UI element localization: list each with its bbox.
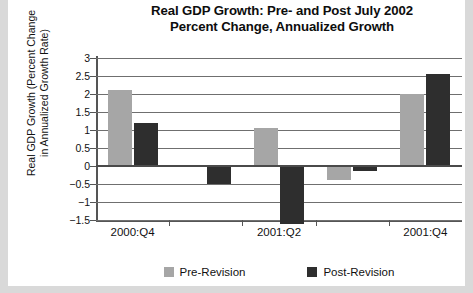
- y-axis-title-line-1: Real GDP Growth (Percent Change: [25, 0, 38, 198]
- bar-pre-revision-2001:Q3: [327, 166, 351, 180]
- zero-baseline: [96, 165, 462, 167]
- gridline: [96, 58, 462, 59]
- y-axis-tick-label: 2: [50, 89, 90, 99]
- y-axis-tick-label: 0: [50, 161, 90, 171]
- y-axis-tick: [90, 148, 96, 149]
- legend-item-pre-revision: Pre-Revision: [164, 266, 246, 278]
- y-axis-tick: [90, 184, 96, 185]
- bar-pre-revision-2001:Q2: [254, 128, 278, 166]
- x-axis-tick-label: 2001:Q4: [403, 226, 447, 238]
- legend-swatch-icon: [164, 267, 174, 277]
- chart-title: Real GDP Growth: Pre- and Post July 2002…: [96, 3, 468, 35]
- y-axis-line: [96, 56, 98, 222]
- y-axis-tick: [90, 94, 96, 95]
- y-axis-tick: [90, 112, 96, 113]
- y-axis-tick-label: 0.5: [50, 143, 90, 153]
- gridline: [96, 76, 462, 77]
- y-axis-tick-label: 1: [50, 125, 90, 135]
- y-axis-tick-label: −0.5: [50, 179, 90, 189]
- chart-legend: Pre-RevisionPost-Revision: [96, 262, 462, 282]
- x-axis-tick-labels: 2000:Q42001:Q22001:Q4: [96, 226, 462, 244]
- gridline: [96, 202, 462, 203]
- y-axis-tick: [90, 58, 96, 59]
- bar-post-revision-2000:Q4: [134, 123, 158, 166]
- y-axis-tick-label: −1.5: [50, 215, 90, 225]
- y-axis-tick: [90, 76, 96, 77]
- legend-item-post-revision: Post-Revision: [307, 266, 394, 278]
- page-edge-right: [465, 0, 473, 293]
- x-axis-tick-label: 2001:Q2: [257, 226, 301, 238]
- legend-swatch-icon: [307, 267, 317, 277]
- bar-pre-revision-2001:Q4: [400, 94, 424, 166]
- page-edge-left: [0, 0, 8, 293]
- chart-title-line-1: Real GDP Growth: Pre- and Post July 2002: [96, 3, 468, 19]
- legend-label: Pre-Revision: [180, 266, 246, 278]
- page-edge-bottom: [0, 286, 473, 293]
- gridline: [96, 184, 462, 185]
- y-axis-tick: [90, 130, 96, 131]
- chart-title-line-2: Percent Change, Annualized Growth: [96, 19, 468, 35]
- bar-post-revision-2001:Q1: [207, 166, 231, 184]
- bar-pre-revision-2000:Q4: [108, 90, 132, 166]
- y-axis-tick-labels: 32.521.510.50−0.5−1−1.5: [44, 58, 90, 220]
- y-axis-tick-label: 3: [50, 53, 90, 63]
- x-axis-tick-label: 2000:Q4: [111, 226, 155, 238]
- bar-post-revision-2001:Q2: [280, 166, 304, 224]
- bar-post-revision-2001:Q4: [426, 74, 450, 166]
- y-axis-tick: [90, 220, 96, 221]
- gridline: [96, 220, 462, 221]
- chart-figure: Real GDP Growth: Pre- and Post July 2002…: [0, 0, 473, 293]
- y-axis-tick-label: 2.5: [50, 71, 90, 81]
- y-axis-tick-label: −1: [50, 197, 90, 207]
- plot-area: [96, 58, 462, 220]
- legend-label: Post-Revision: [323, 266, 394, 278]
- y-axis-tick-label: 1.5: [50, 107, 90, 117]
- y-axis-tick: [90, 202, 96, 203]
